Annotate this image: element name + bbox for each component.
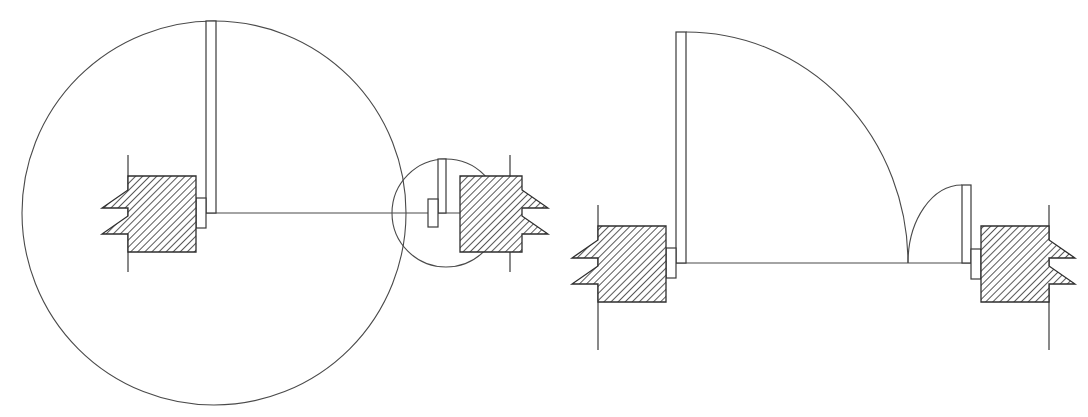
technical-drawing-canvas: [0, 0, 1088, 417]
front-view-large-hub: [196, 198, 206, 228]
front-view-small-hub: [428, 199, 438, 227]
side-view-right-hub: [971, 249, 981, 279]
side-view-large-blade: [676, 32, 686, 263]
front-view-small-blade: [438, 159, 446, 213]
technical-drawing-svg: [0, 0, 1088, 417]
front-view-large-blade: [206, 21, 216, 213]
side-view-small-blade: [962, 185, 971, 263]
side-view-left-hub: [666, 248, 676, 278]
